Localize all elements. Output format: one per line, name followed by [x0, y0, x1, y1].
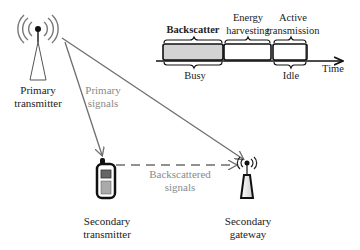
backscatter-label: Backscatter [164, 23, 222, 36]
secondary-transmitter-phone-icon [97, 158, 115, 198]
primary-signals-label: Primary signals [80, 84, 126, 110]
backscatter-segment [163, 44, 223, 60]
idle-label: Idle [278, 69, 304, 82]
primary-transmitter-label: Primary transmitter [6, 84, 70, 110]
secondary-gateway-icon [237, 157, 256, 198]
busy-label: Busy [180, 69, 210, 82]
active-transmission-segment [273, 44, 307, 60]
timeline [156, 37, 342, 68]
secondary-transmitter-label: Secondary transmitter [72, 215, 142, 241]
energy-harvesting-segment [224, 44, 271, 60]
time-axis-label: Time [318, 62, 348, 75]
active-transmission-label: Active transmission [266, 11, 320, 37]
diagram-canvas [0, 0, 360, 250]
primary-transmitter-icon [18, 15, 58, 80]
backscattered-signals-label: Backscattered signals [140, 168, 220, 194]
secondary-gateway-label: Secondary gateway [216, 215, 280, 241]
